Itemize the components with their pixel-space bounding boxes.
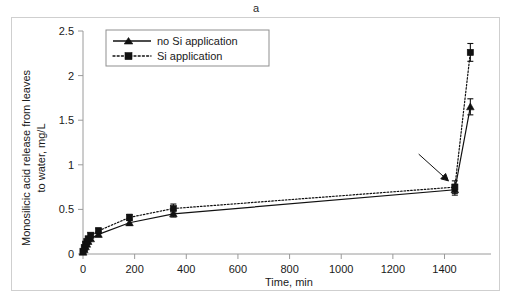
y-tick-label: 2 xyxy=(68,70,74,82)
data-point-square xyxy=(95,228,101,234)
x-axis-ticks: 0200400600800100012001400 xyxy=(80,254,457,275)
legend: no Si application Si application xyxy=(106,30,269,66)
data-point-square xyxy=(126,214,132,220)
x-tick-label: 600 xyxy=(229,263,247,275)
x-tick-label: 0 xyxy=(80,263,86,275)
legend-label-0: no Si application xyxy=(157,35,238,47)
data-point-square xyxy=(467,49,473,55)
y-axis-title-line1: Monosilicic acid release from leaves xyxy=(20,69,32,246)
x-tick-label: 1400 xyxy=(432,263,456,275)
plot-series-group xyxy=(79,43,474,255)
data-point-square xyxy=(170,205,176,211)
figure-frame: Monosilicic acid release from leaves to … xyxy=(11,17,500,291)
series-line xyxy=(83,107,470,252)
series-0 xyxy=(79,99,474,255)
legend-label-1: Si application xyxy=(157,50,222,62)
annotations-group xyxy=(419,154,449,181)
y-tick-label: 0.5 xyxy=(59,203,74,215)
y-tick-label: 1 xyxy=(68,159,74,171)
series-1 xyxy=(80,43,474,254)
y-axis-title: Monosilicic acid release from leaves to … xyxy=(20,69,47,246)
y-tick-label: 0 xyxy=(68,248,74,260)
panel-label: a xyxy=(0,2,512,14)
x-tick-label: 1000 xyxy=(329,263,353,275)
series-line xyxy=(83,52,470,251)
x-tick-label: 800 xyxy=(280,263,298,275)
chart-canvas: Monosilicic acid release from leaves to … xyxy=(12,18,499,290)
x-axis-title: Time, min xyxy=(265,276,313,288)
x-tick-label: 1200 xyxy=(381,263,405,275)
pointer-arrow-annotation xyxy=(419,154,449,181)
y-tick-label: 1.5 xyxy=(59,114,74,126)
x-tick-label: 200 xyxy=(125,263,143,275)
y-axis-title-line2: to water, mg/L xyxy=(35,123,47,192)
figure-root: a Monosilicic acid release from leaves t… xyxy=(0,0,512,306)
data-point-square xyxy=(452,184,458,190)
y-axis-ticks: 00.511.522.5 xyxy=(59,25,83,260)
x-tick-label: 400 xyxy=(177,263,195,275)
y-tick-label: 2.5 xyxy=(59,25,74,37)
legend-marker-square xyxy=(125,53,132,60)
data-point-triangle xyxy=(467,103,475,110)
data-point-square xyxy=(88,232,94,238)
